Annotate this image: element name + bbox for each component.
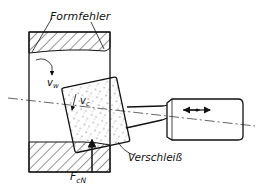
grinding-wheel xyxy=(62,77,130,153)
form-error-label: Formfehler xyxy=(50,10,112,23)
wear-label: Verschleiß xyxy=(128,151,183,163)
spindle-housing xyxy=(167,99,243,140)
center-axis xyxy=(8,98,255,126)
shaft-bottom xyxy=(126,118,167,128)
grinding-diagram: Formfehler vw vc Verschleiß FcN xyxy=(0,0,261,194)
oscillation-center-dot xyxy=(195,108,198,111)
grinding-wheel-body xyxy=(62,77,130,153)
workpiece-top-wall xyxy=(29,32,110,53)
workpiece-rotation-arrow xyxy=(36,59,52,75)
spindle-body xyxy=(167,99,243,140)
workpiece-speed-label: vw xyxy=(47,77,59,90)
shaft-top xyxy=(127,105,167,107)
